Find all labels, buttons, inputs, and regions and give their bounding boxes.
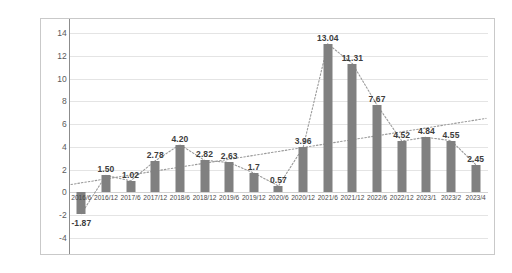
x-tick-label: 2016/6 [71, 194, 91, 201]
x-tick-label: 2023/1 [416, 194, 436, 201]
y-tick-label: 4 [62, 142, 67, 152]
bar[interactable] [225, 162, 234, 192]
chart-plot-wrapper: 14121086420-2-4 -1.872016/61.502016/121.… [41, 19, 494, 254]
bar[interactable] [422, 137, 431, 192]
bar[interactable] [249, 173, 258, 192]
chart-frame: 14121086420-2-4 -1.872016/61.502016/121.… [40, 18, 495, 255]
bar-value-label: 2.78 [147, 150, 164, 160]
bar-value-label: 4.20 [171, 134, 188, 144]
y-tick-label: 6 [62, 119, 67, 129]
bar-slot: 11.312021/12 [340, 19, 365, 254]
bar-slot: 4.842023/1 [414, 19, 439, 254]
y-tick-label: 10 [57, 74, 67, 84]
bar-value-label: 1.7 [248, 162, 260, 172]
x-tick-label: 2017/6 [121, 194, 141, 201]
bar-series: -1.872016/61.502016/121.022017/62.782017… [69, 19, 488, 254]
bar[interactable] [151, 161, 160, 193]
bar[interactable] [373, 105, 382, 192]
x-tick-label: 2020/6 [268, 194, 288, 201]
bar-value-label: 2.82 [196, 149, 213, 159]
x-tick-label: 2022/12 [390, 194, 414, 201]
y-tick-label: 8 [62, 96, 67, 106]
y-tick-label: -2 [59, 210, 67, 220]
y-tick-label: 0 [62, 187, 67, 197]
x-tick-label: 2023/4 [466, 194, 486, 201]
bar-value-label: 7.67 [369, 94, 386, 104]
bar[interactable] [323, 44, 332, 193]
bar-value-label: 2.63 [221, 151, 238, 161]
bar-slot: 1.502016/12 [94, 19, 119, 254]
bar-value-label: 1.50 [97, 164, 114, 174]
bar[interactable] [447, 141, 456, 193]
bar-value-label: 11.31 [342, 53, 363, 63]
x-tick-label: 2016/12 [94, 194, 118, 201]
bar-value-label: 0.57 [270, 175, 287, 185]
y-axis-tick-labels: 14121086420-2-4 [41, 19, 67, 254]
bar-slot: 7.672022/6 [365, 19, 390, 254]
bar[interactable] [175, 145, 184, 193]
bar-value-label: 4.55 [443, 130, 460, 140]
plot-area: -1.872016/61.502016/121.022017/62.782017… [69, 19, 488, 254]
bar-value-label: -1.87 [71, 218, 91, 228]
bar-value-label: 1.02 [122, 170, 139, 180]
x-tick-label: 2021/6 [318, 194, 338, 201]
x-tick-label: 2018/6 [170, 194, 190, 201]
x-tick-label: 2023/2 [441, 194, 461, 201]
x-tick-label: 2020/12 [291, 194, 315, 201]
bar-slot: 2.632019/6 [217, 19, 242, 254]
bar-value-label: 2.45 [467, 154, 484, 164]
bar-slot: 4.522022/12 [389, 19, 414, 254]
bar[interactable] [471, 165, 480, 193]
y-tick-label: 12 [57, 51, 67, 61]
x-tick-label: 2019/12 [242, 194, 266, 201]
y-tick-label: -4 [59, 233, 67, 243]
bar[interactable] [126, 181, 135, 193]
x-tick-label: 2022/6 [367, 194, 387, 201]
bar-slot: 4.202018/6 [168, 19, 193, 254]
bar-value-label: 4.84 [418, 126, 435, 136]
bar-value-label: 4.52 [393, 130, 410, 140]
bar-slot: 13.042021/6 [315, 19, 340, 254]
bar[interactable] [200, 160, 209, 192]
bar[interactable] [299, 147, 308, 192]
bar[interactable] [101, 175, 110, 192]
bar[interactable] [348, 64, 357, 193]
bar-slot: 4.552023/2 [439, 19, 464, 254]
bar-slot: 0.572020/6 [266, 19, 291, 254]
x-tick-label: 2018/12 [193, 194, 217, 201]
y-tick-label: 14 [57, 28, 67, 38]
y-tick-label: 2 [62, 165, 67, 175]
bar-value-label: 13.04 [317, 33, 339, 43]
bar-slot: 2.822018/12 [192, 19, 217, 254]
x-tick-label: 2019/6 [219, 194, 239, 201]
x-tick-label: 2021/12 [341, 194, 365, 201]
bar-slot: 2.782017/12 [143, 19, 168, 254]
bar-slot: 1.72019/12 [242, 19, 267, 254]
x-tick-label: 2017/12 [143, 194, 167, 201]
bar-slot: 3.962020/12 [291, 19, 316, 254]
bar[interactable] [274, 186, 283, 192]
bar-slot: 2.452023/4 [463, 19, 488, 254]
bar-slot: 1.022017/6 [118, 19, 143, 254]
bar-slot: -1.872016/6 [69, 19, 94, 254]
bar[interactable] [397, 141, 406, 192]
bar-value-label: 3.96 [295, 136, 312, 146]
